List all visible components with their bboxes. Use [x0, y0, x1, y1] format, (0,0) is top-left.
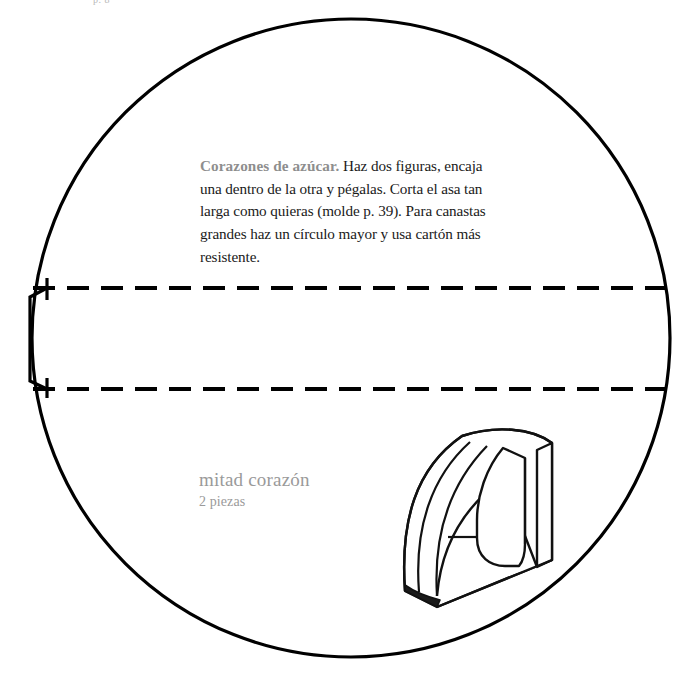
piece-label-subtitle: 2 piezas: [199, 492, 310, 512]
heart-half-3d-drawing: [404, 429, 552, 607]
piece-label: mitad corazón 2 piezas: [199, 468, 310, 512]
pattern-sheet-page: p. 8: [0, 0, 678, 674]
instructions-paragraph: Corazones de azúcar. Haz dos figuras, en…: [200, 155, 500, 268]
circle-template-outline: [32, 19, 670, 657]
piece-label-title: mitad corazón: [199, 468, 310, 492]
heart-right-face: [537, 443, 552, 567]
pattern-artwork: [0, 0, 678, 674]
instructions-lead: Corazones de azúcar.: [200, 157, 339, 174]
